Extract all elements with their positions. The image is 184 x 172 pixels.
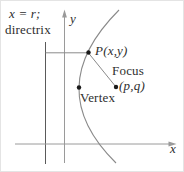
parabola-curve xyxy=(79,10,119,163)
vertex-word-label: Vertex xyxy=(80,91,115,104)
focus-dot xyxy=(114,85,118,89)
focus-word-label: Focus xyxy=(112,64,144,77)
parabola-directrix-figure: x = r; directrix y x P(x,y) Focus (p,q) … xyxy=(0,0,184,172)
y-axis-label: y xyxy=(70,12,76,25)
directrix-word-label: directrix xyxy=(5,23,51,36)
point-p-dot xyxy=(86,50,90,54)
x-axis-label: x xyxy=(170,142,176,155)
directrix-equation-label: x = r; xyxy=(9,7,41,20)
focus-coords-label: (p,q) xyxy=(119,79,145,92)
point-p-label: P(x,y) xyxy=(95,44,128,57)
y-axis-arrowhead-icon xyxy=(62,10,67,18)
